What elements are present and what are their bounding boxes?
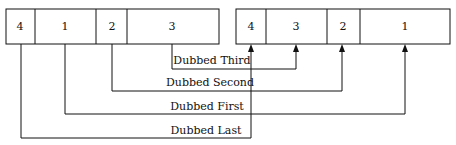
target-block-label: 3 (293, 20, 300, 33)
target-block-label: 1 (402, 20, 409, 33)
arrow-icon (402, 44, 408, 52)
source-block-label: 1 (62, 20, 69, 33)
arrow-icon (339, 44, 345, 52)
label-dubbed-third: Dubbed Third (173, 54, 250, 67)
label-dubbed-first: Dubbed First (170, 100, 244, 113)
source-block-label: 2 (109, 20, 116, 33)
arrow-icon (293, 44, 299, 52)
label-dubbed-last: Dubbed Last (171, 124, 243, 137)
source-block-label: 4 (17, 20, 24, 33)
target-block-label: 4 (248, 20, 255, 33)
label-dubbed-second: Dubbed Second (166, 76, 254, 89)
target-block-label: 2 (340, 20, 347, 33)
arrow-icon (248, 44, 254, 52)
dubbing-diagram: 4 1 2 3 4 3 2 1 Dubbed Third Dubbed Seco… (0, 0, 456, 145)
source-block-label: 3 (169, 20, 176, 33)
